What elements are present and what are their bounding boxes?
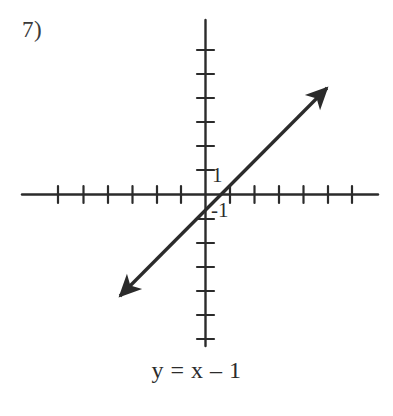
y-axis-label-one: 1 (212, 165, 223, 186)
coordinate-plane-svg (0, 0, 393, 416)
equation-label: y = x – 1 (0, 358, 393, 382)
graph-figure: 7) (0, 0, 393, 416)
y-intercept-label-negative-one: -1 (211, 200, 229, 221)
plotted-line (120, 88, 327, 296)
